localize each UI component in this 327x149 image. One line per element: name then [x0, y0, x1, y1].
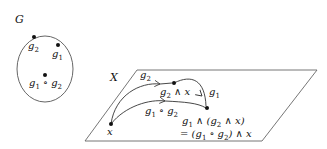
label-result-line2: = (g1 ∘ g2) ∧ x — [180, 129, 252, 142]
arrow-g2-cont — [160, 83, 172, 84]
label-x: x — [107, 127, 113, 137]
point-g2x — [172, 81, 176, 85]
point-g1 — [56, 43, 60, 47]
point-g2 — [32, 35, 36, 39]
arrow-label-g1g2: g1 ∘ g2 — [145, 106, 178, 119]
arrow-label-g2: g2 — [140, 70, 151, 83]
point-result — [205, 106, 209, 110]
label-g2: g2 — [28, 41, 39, 54]
arrow-g1-head — [194, 89, 202, 96]
label-g2x: g2 ∧ x — [160, 87, 190, 100]
diagram-canvas — [0, 0, 327, 149]
label-g1g2: g1 ∘ g2 — [29, 78, 62, 91]
arrow-label-g1: g1 — [209, 87, 220, 100]
space-label: X — [110, 72, 118, 83]
group-ellipse — [17, 36, 73, 102]
label-g1: g1 — [52, 49, 63, 62]
group-label: G — [15, 14, 24, 25]
